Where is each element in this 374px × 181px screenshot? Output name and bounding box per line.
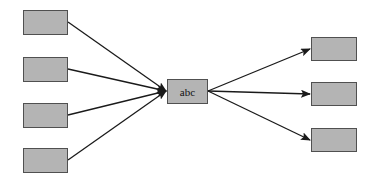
center-node-center: abc: [167, 79, 208, 104]
input-node-in1: [23, 10, 68, 35]
edge-arrow-in3-to-center: [68, 91, 166, 115]
output-node-out2: [311, 82, 357, 106]
input-node-in3: [23, 103, 68, 128]
input-node-in4: [23, 148, 68, 173]
edge-arrow-center-to-out3: [208, 91, 310, 140]
output-node-out1: [311, 37, 357, 61]
edge-arrow-in4-to-center: [68, 91, 166, 160]
output-node-out3: [311, 128, 357, 152]
edge-arrow-center-to-out1: [208, 49, 310, 91]
input-node-in2: [23, 57, 68, 82]
flow-diagram: abc: [0, 0, 374, 181]
node-label: abc: [180, 86, 195, 98]
edge-arrow-center-to-out2: [208, 91, 310, 94]
